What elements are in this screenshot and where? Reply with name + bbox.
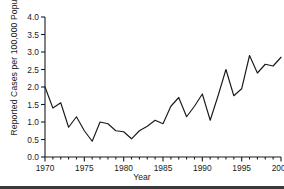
y-axis-label: Reported Cases per 100,000 Population — [9, 0, 19, 137]
line-chart-plot: 0.00.51.01.52.02.53.03.54.0 197019751980… — [0, 0, 284, 189]
y-tick-label: 3.0 — [27, 47, 39, 57]
chart-figure: Reported Cases per 100,000 Population 0.… — [0, 0, 284, 189]
y-tick-label: 1.5 — [27, 100, 39, 110]
y-axis-ticks: 0.00.51.01.52.02.53.03.54.0 — [27, 12, 45, 162]
y-tick-label: 2.5 — [27, 65, 39, 75]
data-series-line — [45, 56, 281, 142]
y-tick-label: 0.5 — [27, 135, 39, 145]
y-tick-label: 3.5 — [27, 30, 39, 40]
y-tick-label: 4.0 — [27, 12, 39, 22]
figure-bottom-rule — [0, 186, 284, 189]
y-tick-label: 2.0 — [27, 82, 39, 92]
x-axis-label: Year — [0, 172, 284, 182]
y-tick-label: 0.0 — [27, 152, 39, 162]
x-axis-ticks: 1970197519801985199019952000 — [36, 157, 284, 173]
y-tick-label: 1.0 — [27, 117, 39, 127]
